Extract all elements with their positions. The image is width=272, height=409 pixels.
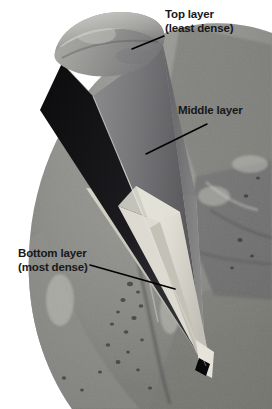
leader-lines	[0, 0, 272, 409]
label-top-layer-line2: (least dense)	[165, 21, 233, 35]
label-middle-layer-line1: Middle layer	[178, 104, 243, 116]
label-bottom-layer-line2: (most dense)	[18, 260, 88, 274]
label-middle-layer: Middle layer	[178, 103, 243, 117]
label-bottom-layer-line1: Bottom layer	[18, 247, 87, 259]
leader-line-top-layer	[132, 36, 164, 49]
leader-line-bottom-layer	[90, 265, 175, 289]
leader-line-middle-layer	[146, 124, 207, 154]
label-bottom-layer: Bottom layer (most dense)	[18, 246, 88, 274]
label-top-layer: Top layer (least dense)	[165, 7, 233, 35]
label-top-layer-line1: Top layer	[165, 8, 214, 20]
layered-cone-diagram: Top layer (least dense) Middle layer Bot…	[0, 0, 272, 409]
